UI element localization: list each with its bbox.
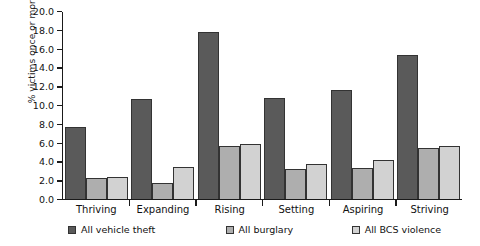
x-axis-label: Aspiring: [330, 204, 397, 215]
y-axis-tick-mark: [57, 199, 62, 200]
y-axis-tick: 10.0: [6, 100, 62, 112]
bar-chart: % victims once or more 0.02.04.06.08.010…: [0, 0, 480, 246]
bar: [331, 90, 352, 199]
y-axis-tick-mark: [57, 124, 62, 125]
chart-legend: All vehicle theftAll burglaryAll BCS vio…: [62, 224, 462, 235]
bar-groups: [63, 12, 462, 199]
bar: [152, 183, 173, 199]
y-axis-tick: 20.0: [6, 6, 62, 18]
y-axis-tick: 14.0: [6, 62, 62, 74]
bar: [107, 177, 128, 199]
y-axis-tick-label: 14.0: [33, 62, 54, 74]
x-axis-label: Striving: [396, 204, 463, 215]
legend-swatch-icon: [226, 226, 234, 234]
bar-group: [263, 12, 330, 199]
y-axis-tick-mark: [57, 49, 62, 50]
y-axis-tick: 4.0: [6, 156, 62, 168]
y-axis-tick-label: 4.0: [39, 156, 54, 168]
x-axis-label: Expanding: [130, 204, 197, 215]
y-axis-tick-label: 12.0: [33, 81, 54, 93]
bar: [397, 55, 418, 199]
legend-label: All BCS violence: [365, 224, 441, 235]
y-axis-tick-mark: [57, 86, 62, 87]
bar-group: [130, 12, 197, 199]
legend-item[interactable]: All BCS violence: [352, 224, 462, 235]
x-axis-label: Setting: [263, 204, 330, 215]
y-axis-tick: 0.0: [6, 194, 62, 206]
bar-group: [63, 12, 130, 199]
y-axis-tick-mark: [57, 67, 62, 68]
bar-group: [196, 12, 263, 199]
y-axis-tick: 6.0: [6, 138, 62, 150]
y-axis-tick-mark: [57, 105, 62, 106]
legend-item[interactable]: All burglary: [226, 224, 352, 235]
bar: [65, 127, 86, 198]
y-axis-tick: 8.0: [6, 119, 62, 131]
legend-label: All vehicle theft: [81, 224, 155, 235]
bar: [373, 160, 394, 199]
y-axis-tick-mark: [57, 180, 62, 181]
bar: [240, 144, 261, 199]
bar: [173, 167, 194, 198]
bar: [86, 178, 107, 199]
legend-swatch-icon: [352, 226, 360, 234]
bar: [306, 164, 327, 199]
x-axis-label: Thriving: [63, 204, 130, 215]
bar: [131, 99, 152, 199]
y-axis-tick: 18.0: [6, 25, 62, 37]
y-axis-tick: 12.0: [6, 81, 62, 93]
bar: [219, 146, 240, 199]
y-axis-tick-mark: [57, 161, 62, 162]
legend-swatch-icon: [68, 226, 76, 234]
y-axis-tick-mark: [57, 30, 62, 31]
bar-group: [396, 12, 463, 199]
x-axis-labels: ThrivingExpandingRisingSettingAspiringSt…: [63, 204, 463, 215]
y-axis-tick-label: 16.0: [33, 44, 54, 56]
y-axis-tick-label: 8.0: [39, 119, 54, 131]
bar: [264, 98, 285, 199]
bar: [439, 146, 460, 199]
y-axis-tick-mark: [57, 143, 62, 144]
x-axis-label: Rising: [196, 204, 263, 215]
y-axis-tick-mark: [57, 11, 62, 12]
y-axis-tick-label: 20.0: [33, 6, 54, 18]
y-axis-tick-label: 0.0: [39, 194, 54, 206]
bar: [418, 148, 439, 199]
bar: [352, 168, 373, 199]
bar-group: [329, 12, 396, 199]
y-axis-tick: 16.0: [6, 44, 62, 56]
y-axis-tick: 2.0: [6, 175, 62, 187]
bar: [198, 32, 219, 198]
legend-label: All burglary: [239, 224, 294, 235]
y-axis-tick-label: 10.0: [33, 100, 54, 112]
y-axis-tick-label: 6.0: [39, 138, 54, 150]
plot-area: 0.02.04.06.08.010.012.014.016.018.020.0: [62, 12, 462, 200]
bar: [285, 169, 306, 198]
y-axis-tick-label: 2.0: [39, 175, 54, 187]
y-axis-tick-label: 18.0: [33, 25, 54, 37]
legend-item[interactable]: All vehicle theft: [62, 224, 226, 235]
